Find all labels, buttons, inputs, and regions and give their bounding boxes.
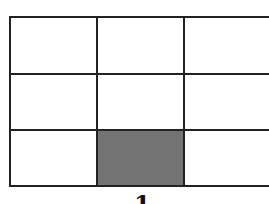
figure-caption: 1 (134, 190, 151, 204)
grid-line-bottom (9, 185, 269, 187)
grid-diagram (9, 16, 269, 187)
grid-line-col-2 (183, 16, 185, 187)
shaded-cell (98, 131, 183, 185)
grid-line-left (9, 16, 11, 187)
grid-line-row-1 (9, 73, 269, 75)
grid-line-top (9, 16, 269, 18)
